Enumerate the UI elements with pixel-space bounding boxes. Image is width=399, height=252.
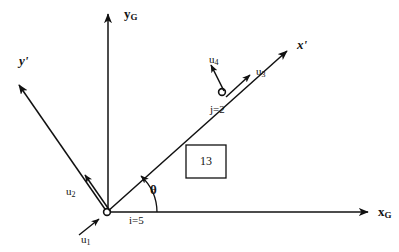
- diagram-canvas: yG xG x' y' θ i=5 j=2 13 u1 u2 u3 u4: [0, 0, 399, 252]
- local-y-prime-axis-label: y': [19, 54, 28, 67]
- u4-arrow: [211, 65, 224, 91]
- local-y-prime-line: [19, 85, 107, 212]
- global-x-axis-label: xG: [378, 205, 392, 220]
- node-j-marker: [219, 89, 226, 96]
- u2-arrow: [85, 175, 110, 211]
- local-y-prime-axis: [19, 85, 107, 212]
- local-x-prime-axis-label: x': [297, 38, 307, 51]
- global-y-axis-label: yG: [124, 7, 138, 22]
- u3-arrow-line: [226, 75, 250, 97]
- u3-label: u3: [256, 66, 266, 79]
- u2-label: u2: [66, 186, 76, 199]
- node-i-label: i=5: [129, 215, 144, 226]
- u4-label: u4: [209, 54, 219, 67]
- diagram-svg: [0, 0, 399, 252]
- u2-arrow-line: [85, 175, 110, 211]
- element-number-label: 13: [186, 155, 226, 167]
- u4-arrow-line: [211, 65, 224, 91]
- u1-label: u1: [81, 234, 91, 247]
- theta-label: θ: [150, 183, 157, 196]
- u3-arrow: [226, 75, 250, 97]
- node-j-label: j=2: [210, 104, 225, 115]
- node-j: [219, 89, 226, 96]
